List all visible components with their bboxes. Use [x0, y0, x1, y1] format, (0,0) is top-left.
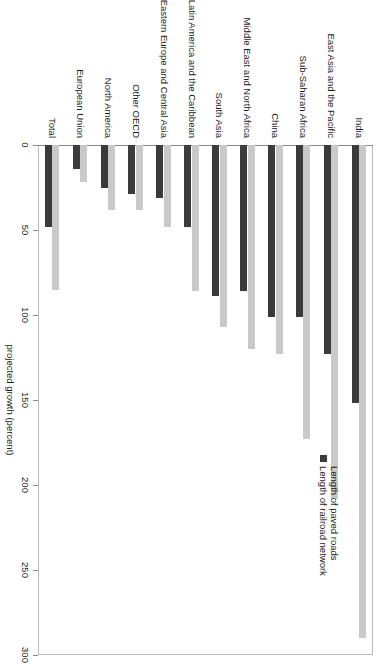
value-axis-tick-label: 200: [20, 477, 31, 493]
category-label: European Union: [75, 69, 85, 138]
bar: [156, 145, 163, 198]
legend-item-paved-roads: Length of paved roads: [329, 455, 340, 576]
legend-label-railroad-network: Length of railroad network: [318, 466, 329, 576]
chart-stage: 050100150200250300 IndiaEast Asia and th…: [0, 0, 376, 672]
category-label: North America: [103, 78, 113, 138]
value-axis-tick-label: 250: [20, 562, 31, 578]
legend-swatch-icon-paved-roads: [331, 455, 338, 462]
category-label: India: [354, 117, 364, 138]
category-axis-labels: IndiaEast Asia and the PacificSub-Sahara…: [38, 0, 373, 142]
bar: [359, 145, 366, 638]
category-label: Latin America and the Caribbean: [187, 0, 197, 138]
bar: [136, 145, 143, 210]
chart-legend: Length of paved roads Length of railroad…: [318, 455, 340, 576]
value-axis-tick-label: 0: [20, 142, 31, 147]
bar: [192, 145, 199, 291]
bar: [324, 145, 331, 354]
category-label: Total: [47, 118, 57, 138]
legend-label-paved-roads: Length of paved roads: [329, 466, 340, 561]
bar: [45, 145, 52, 227]
bar: [212, 145, 219, 296]
value-axis-tick-label: 300: [20, 647, 31, 663]
category-label: China: [270, 113, 280, 138]
value-axis-tick-label: 100: [20, 307, 31, 323]
category-label: East Asia and the Pacific: [326, 33, 336, 138]
bar: [276, 145, 283, 354]
bar: [108, 145, 115, 210]
bar: [73, 145, 80, 169]
bar: [52, 145, 59, 290]
bar: [240, 145, 247, 291]
bar: [331, 145, 338, 499]
value-axis-tick: [33, 655, 38, 656]
bar: [220, 145, 227, 327]
bar: [101, 145, 108, 188]
legend-swatch-icon-railroad-network: [320, 455, 327, 462]
bar: [303, 145, 310, 439]
bar: [80, 145, 87, 182]
value-axis-title: projected growth (percent): [5, 345, 16, 456]
category-label: Sub-Saharan Africa: [298, 56, 308, 138]
bar: [248, 145, 255, 349]
value-axis-tick-label: 50: [20, 225, 31, 236]
bar: [184, 145, 191, 227]
category-label: Middle East and North Africa: [242, 18, 252, 138]
bar: [128, 145, 135, 194]
legend-item-railroad-network: Length of railroad network: [318, 455, 329, 576]
category-label: South Asia: [214, 93, 224, 138]
chart-figure: 050100150200250300 IndiaEast Asia and th…: [0, 0, 376, 672]
bar: [268, 145, 275, 317]
category-label: Other OECD: [131, 84, 141, 138]
category-label: Eastern Europe and Central Asia: [159, 0, 169, 138]
bar: [164, 145, 171, 227]
bar: [296, 145, 303, 317]
bars-layer: [38, 145, 373, 655]
bar: [352, 145, 359, 403]
value-axis-tick-label: 150: [20, 392, 31, 408]
